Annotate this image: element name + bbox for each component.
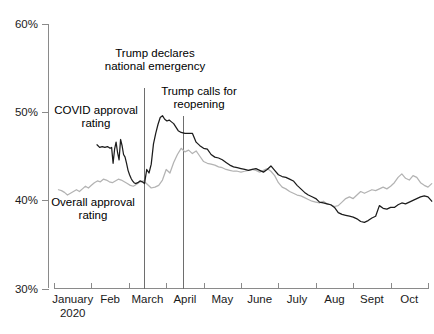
series-label-covid-line2: rating bbox=[52, 117, 140, 130]
x-tick-label: April bbox=[173, 293, 196, 305]
annotation-reopening-line1: Trump calls for bbox=[147, 85, 251, 98]
x-tick-labels: January2020FebMarchAprilMayJuneJulyAugSe… bbox=[52, 293, 419, 319]
y-tick-label: 30% bbox=[15, 283, 38, 295]
annotation-reopening: Trump calls for reopening bbox=[147, 85, 251, 111]
approval-rating-chart: 30%40%50%60% January2020FebMarchAprilMay… bbox=[0, 0, 434, 334]
series-label-overall: Overall approval rating bbox=[48, 196, 138, 222]
series-label-covid-line1: COVID approval bbox=[52, 104, 140, 117]
annotation-national-emergency-line1: Trump declares bbox=[93, 47, 217, 60]
x-tick-label: March bbox=[132, 293, 164, 305]
chart-canvas: 30%40%50%60% January2020FebMarchAprilMay… bbox=[0, 0, 434, 334]
series-line-covid-approval bbox=[97, 116, 432, 223]
x-axis-group bbox=[54, 283, 429, 289]
y-tick-marks bbox=[42, 25, 49, 290]
x-tick-label-year: 2020 bbox=[60, 307, 86, 319]
x-tick-label: July bbox=[287, 293, 308, 305]
annotation-reopening-line2: reopening bbox=[147, 98, 251, 111]
y-tick-label: 50% bbox=[15, 106, 38, 118]
x-tick-label: Oct bbox=[400, 293, 419, 305]
x-tick-label: Sept bbox=[360, 293, 384, 305]
series-label-overall-line1: Overall approval bbox=[48, 196, 138, 209]
x-tick-marks bbox=[55, 283, 429, 289]
series-label-covid: COVID approval rating bbox=[52, 104, 140, 130]
x-tick-label: Feb bbox=[100, 293, 120, 305]
x-tick-label: January bbox=[52, 293, 93, 305]
annotation-national-emergency: Trump declares national emergency bbox=[93, 47, 217, 73]
x-tick-label: Aug bbox=[324, 293, 344, 305]
y-tick-labels: 30%40%50%60% bbox=[15, 18, 38, 295]
annotation-national-emergency-line2: national emergency bbox=[93, 60, 217, 73]
x-tick-label: June bbox=[247, 293, 272, 305]
y-axis-group bbox=[42, 24, 49, 289]
y-tick-label: 60% bbox=[15, 18, 38, 30]
series-label-overall-line2: rating bbox=[48, 209, 138, 222]
y-tick-label: 40% bbox=[15, 194, 38, 206]
x-tick-label: May bbox=[211, 293, 233, 305]
